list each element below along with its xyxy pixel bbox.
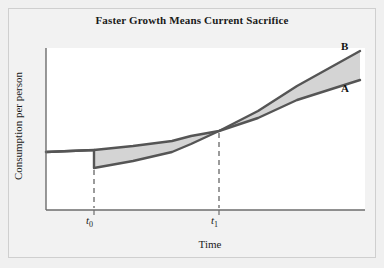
plot-area	[0, 0, 384, 268]
chart-figure: Faster Growth Means Current Sacrifice Co…	[0, 0, 384, 268]
tick-t0-subscript: 0	[89, 220, 93, 229]
curve-label-b: B	[341, 40, 348, 52]
plot-background	[46, 48, 365, 210]
curve-label-a: A	[341, 82, 349, 94]
y-axis-label: Consumption per person	[12, 46, 24, 206]
x-axis-label: Time	[120, 238, 300, 250]
x-tick-label-t1: t1	[211, 214, 218, 229]
x-tick-label-t0: t0	[86, 214, 93, 229]
tick-t1-subscript: 1	[214, 220, 218, 229]
